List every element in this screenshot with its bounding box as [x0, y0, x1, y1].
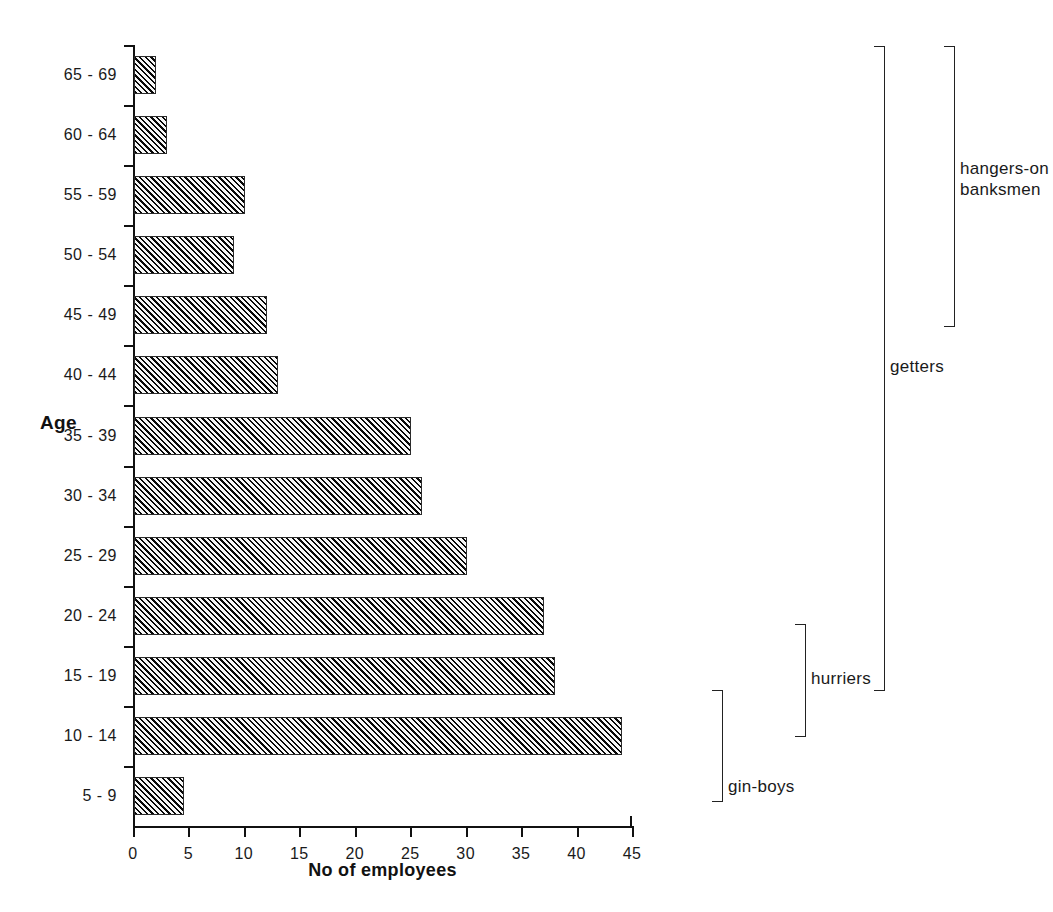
bar — [134, 657, 555, 695]
bracket-gin-boys — [712, 690, 723, 802]
x-tick-label: 10 — [235, 845, 254, 863]
x-tick-label: 5 — [184, 845, 193, 863]
y-tick — [124, 405, 133, 407]
y-tick-label: 45 - 49 — [64, 306, 117, 324]
y-tick — [124, 165, 133, 167]
x-tick-label: 40 — [567, 845, 586, 863]
x-tick-label: 15 — [290, 845, 309, 863]
bar — [134, 477, 422, 515]
bar — [134, 717, 622, 755]
bar — [134, 537, 467, 575]
chart-page: Age No of employees 65 - 6960 - 6455 - 5… — [0, 0, 1053, 912]
x-tick — [410, 826, 412, 837]
bracket-getters — [874, 46, 885, 691]
y-tick-label: 30 - 34 — [64, 487, 117, 505]
x-tick — [133, 826, 135, 837]
y-tick-label: 35 - 39 — [64, 427, 117, 445]
y-tick — [124, 225, 133, 227]
y-tick-label: 60 - 64 — [64, 126, 117, 144]
y-tick — [124, 766, 133, 768]
x-tick-label: 35 — [512, 845, 531, 863]
x-tick-label: 20 — [345, 845, 364, 863]
y-tick-label: 40 - 44 — [64, 366, 117, 384]
group-label-hangers-on-line2: banksmen — [960, 179, 1049, 200]
group-label-hurriers: hurriers — [811, 668, 871, 689]
y-tick — [124, 706, 133, 708]
y-tick-label: 20 - 24 — [64, 607, 117, 625]
y-tick — [124, 45, 133, 47]
x-tick-label: 30 — [456, 845, 475, 863]
bar — [134, 236, 234, 274]
y-tick-label: 65 - 69 — [64, 66, 117, 84]
y-tick — [124, 345, 133, 347]
x-axis-title: No of employees — [133, 860, 632, 881]
x-tick — [244, 826, 246, 837]
x-tick — [521, 826, 523, 837]
x-axis-line — [133, 826, 632, 828]
group-label-hangers-on: hangers-on banksmen — [960, 158, 1049, 201]
group-label-gin-boys: gin-boys — [728, 776, 795, 797]
bar — [134, 176, 245, 214]
y-tick-label: 25 - 29 — [64, 547, 117, 565]
bar — [134, 296, 267, 334]
plot-area: 65 - 6960 - 6455 - 5950 - 5445 - 4940 - … — [133, 45, 632, 826]
group-label-hangers-on-line1: hangers-on — [960, 158, 1049, 179]
y-tick — [124, 285, 133, 287]
y-tick — [124, 586, 133, 588]
y-tick — [124, 105, 133, 107]
y-tick-label: 5 - 9 — [82, 787, 117, 805]
x-tick — [466, 826, 468, 837]
x-tick-label: 25 — [401, 845, 420, 863]
bracket-hangers-on — [944, 46, 955, 327]
x-tick — [577, 826, 579, 837]
bracket-hurriers — [795, 624, 806, 737]
y-tick-label: 55 - 59 — [64, 186, 117, 204]
y-tick-label: 15 - 19 — [64, 667, 117, 685]
x-tick-label: 0 — [128, 845, 137, 863]
y-tick — [124, 466, 133, 468]
x-tick — [355, 826, 357, 837]
y-tick — [124, 646, 133, 648]
group-label-getters: getters — [890, 356, 944, 377]
bar — [134, 417, 411, 455]
bar — [134, 597, 544, 635]
bar — [134, 356, 278, 394]
bar — [134, 777, 184, 815]
bar — [134, 116, 167, 154]
y-tick — [124, 526, 133, 528]
x-tick — [632, 826, 634, 837]
bar — [134, 56, 156, 94]
x-tick-label: 45 — [623, 845, 642, 863]
x-tick — [188, 826, 190, 837]
x-tick — [299, 826, 301, 837]
y-tick-label: 10 - 14 — [64, 727, 117, 745]
y-tick-label: 50 - 54 — [64, 246, 117, 264]
